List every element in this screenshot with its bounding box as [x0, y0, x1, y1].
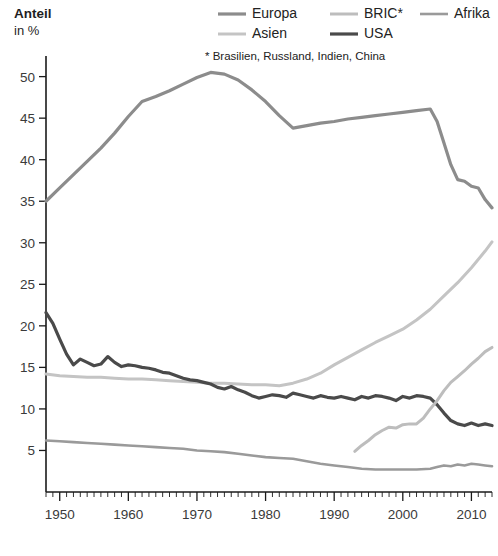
- legend-label: Europa: [252, 5, 297, 21]
- y-tick-label-40: 40: [20, 153, 35, 168]
- legend-item-asien: Asien: [218, 25, 287, 41]
- x-tick-label-1990: 1990: [319, 507, 349, 522]
- axes: 5101520253035404550195019601970198019902…: [20, 56, 492, 522]
- series-line-asien: [46, 242, 492, 386]
- x-tick-label-1960: 1960: [113, 507, 143, 522]
- y-tick-label-50: 50: [20, 70, 35, 85]
- series-lines: [46, 72, 492, 469]
- y-tick-label-5: 5: [27, 443, 35, 458]
- legend-footnote: * Brasilien, Russland, Indien, China: [205, 50, 386, 62]
- series-line-usa: [46, 313, 492, 426]
- y-tick-label-25: 25: [20, 277, 35, 292]
- legend-label: Afrika: [454, 5, 490, 21]
- legend-item-bric: BRIC*: [330, 5, 403, 21]
- y-tick-label-10: 10: [20, 402, 35, 417]
- series-line-bric: [355, 347, 492, 451]
- y-axis-title-line1: Anteil: [14, 6, 52, 21]
- line-chart: Anteil in % EuropaBRIC*AfrikaAsienUSA * …: [0, 0, 498, 556]
- legend-label: Asien: [252, 25, 287, 41]
- x-tick-label-2010: 2010: [456, 507, 486, 522]
- legend-label: USA: [364, 25, 393, 41]
- x-tick-label-2000: 2000: [388, 507, 418, 522]
- chart-container: Anteil in % EuropaBRIC*AfrikaAsienUSA * …: [0, 0, 498, 556]
- y-tick-label-30: 30: [20, 236, 35, 251]
- legend: EuropaBRIC*AfrikaAsienUSA: [218, 5, 490, 41]
- x-tick-label-1970: 1970: [182, 507, 212, 522]
- series-line-europa: [46, 72, 492, 207]
- y-tick-label-15: 15: [20, 360, 35, 375]
- y-tick-label-20: 20: [20, 319, 35, 334]
- series-line-afrika: [46, 440, 492, 469]
- legend-label: BRIC*: [364, 5, 403, 21]
- legend-item-europa: Europa: [218, 5, 297, 21]
- y-tick-label-35: 35: [20, 194, 35, 209]
- legend-item-afrika: Afrika: [420, 5, 490, 21]
- legend-item-usa: USA: [330, 25, 393, 41]
- y-tick-label-45: 45: [20, 111, 35, 126]
- y-axis-title-line2: in %: [14, 23, 40, 38]
- x-tick-label-1950: 1950: [45, 507, 75, 522]
- x-tick-label-1980: 1980: [251, 507, 281, 522]
